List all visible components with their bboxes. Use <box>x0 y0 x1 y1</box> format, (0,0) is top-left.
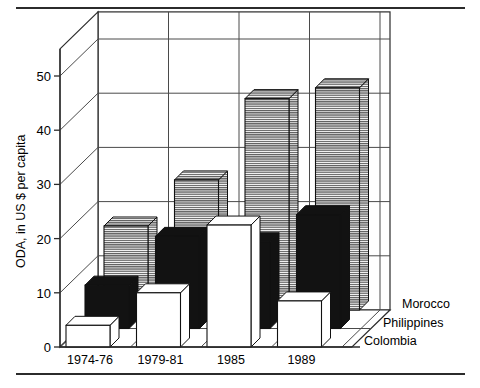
chart-figure: 50403020100 1974-761979-8119851989 Moroc… <box>0 0 480 388</box>
category-label-group: 1974-761979-8119851989 <box>67 353 315 367</box>
bar-colombia-1979-81[interactable] <box>137 284 190 347</box>
category-label-1989: 1989 <box>288 353 316 367</box>
bar-colombia-1974-76[interactable] <box>66 316 119 347</box>
y-tick-label-40: 40 <box>37 123 51 138</box>
bar-colombia-1985[interactable] <box>207 216 260 347</box>
y-tick-label-0: 0 <box>44 340 51 355</box>
y-axis-title: ODA, in US $ per capita <box>14 135 28 268</box>
y-tick-label-30: 30 <box>37 177 51 192</box>
bar-colombia-1989[interactable] <box>278 292 331 347</box>
legend-label-philippines: Philippines <box>383 316 443 330</box>
category-label-1985: 1985 <box>217 353 245 367</box>
category-label-1974-76: 1974-76 <box>67 353 113 367</box>
category-label-1979-81: 1979-81 <box>138 353 184 367</box>
legend-label-colombia: Colombia <box>364 334 417 348</box>
y-tick-label-20: 20 <box>37 232 51 247</box>
y-tick-label-10: 10 <box>37 286 51 301</box>
legend-label-morocco: Morocco <box>402 297 450 311</box>
y-tick-label-50: 50 <box>37 69 51 84</box>
bar-chart-3d: 50403020100 1974-761979-8119851989 Moroc… <box>0 0 480 388</box>
